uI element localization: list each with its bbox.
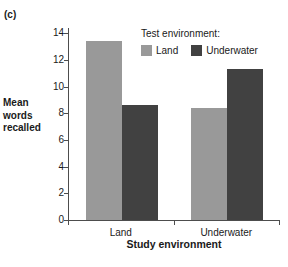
legend-item-land: Land: [141, 44, 178, 57]
y-axis-title-line-2: words: [3, 110, 59, 123]
y-tick-label: 2: [58, 186, 64, 199]
y-tick-label: 12: [53, 53, 64, 66]
y-tick-mark: [64, 87, 68, 88]
y-axis-title: Mean words recalled: [3, 97, 59, 135]
legend-swatch-underwater: [191, 45, 202, 56]
legend: Test environment: Land Underwater: [141, 27, 288, 57]
bar-land-underwater: [122, 105, 158, 220]
y-tick-label: 4: [58, 160, 64, 173]
x-axis-cap-right: [279, 220, 280, 225]
y-tick-label: 10: [53, 80, 64, 93]
y-tick-mark: [64, 193, 68, 194]
y-axis-title-line-1: Mean: [3, 97, 59, 110]
y-tick-mark: [64, 167, 68, 168]
y-tick-mark: [64, 113, 68, 114]
figure-panel-c: (c) Mean words recalled 0 2 4 6 8: [0, 0, 288, 267]
x-axis-separator: [174, 220, 175, 225]
legend-swatch-land: [141, 45, 152, 56]
y-tick-label: 0: [58, 213, 64, 226]
y-tick-mark: [64, 140, 68, 141]
bar-underwater-underwater: [227, 69, 263, 220]
y-tick-mark: [64, 33, 68, 34]
legend-items: Land Underwater: [141, 44, 288, 57]
bar-underwater-land: [191, 108, 227, 220]
panel-label: (c): [4, 9, 16, 20]
y-tick-label: 8: [58, 106, 64, 119]
legend-label-land: Land: [156, 44, 178, 57]
x-axis-title: Study environment: [68, 238, 280, 251]
legend-title: Test environment:: [141, 27, 288, 40]
bar-land-land: [86, 41, 122, 220]
legend-item-underwater: Underwater: [191, 44, 258, 57]
y-tick-mark: [64, 60, 68, 61]
legend-label-underwater: Underwater: [206, 44, 258, 57]
y-tick-label: 14: [53, 26, 64, 39]
y-tick-label: 6: [58, 133, 64, 146]
y-axis-title-line-3: recalled: [3, 122, 59, 135]
x-axis-cap-left: [68, 220, 69, 225]
